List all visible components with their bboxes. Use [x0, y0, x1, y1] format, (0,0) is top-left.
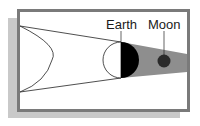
- earth-label: Earth: [106, 17, 137, 32]
- moon-label: Moon: [148, 17, 181, 32]
- moon: [158, 55, 171, 68]
- eclipse-diagram: Earth Moon: [0, 0, 200, 126]
- eclipse-diagram-svg: Earth Moon: [0, 0, 200, 126]
